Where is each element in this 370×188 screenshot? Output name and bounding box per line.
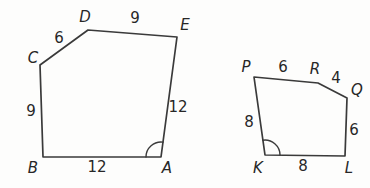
vertex-label-b: B xyxy=(28,159,38,177)
vertex-label-k: K xyxy=(253,159,264,177)
vertex-label-d: D xyxy=(79,8,91,26)
geometry-figure: D 9 E 6 C 12 9 B 12 A P 6 R 4 Q 8 6 K 8 … xyxy=(0,0,370,188)
side-label-rq: 4 xyxy=(331,69,341,87)
similar-pentagons-diagram: D 9 E 6 C 12 9 B 12 A P 6 R 4 Q 8 6 K 8 … xyxy=(0,0,370,188)
vertex-label-p: P xyxy=(241,58,251,76)
side-label-cd: 6 xyxy=(54,29,64,47)
vertex-label-c: C xyxy=(28,49,39,67)
vertex-label-l: L xyxy=(345,159,353,177)
side-label-pr: 6 xyxy=(278,58,288,76)
vertex-label-a: A xyxy=(161,159,172,177)
left-pentagon: D 9 E 6 C 12 9 B 12 A xyxy=(26,8,190,177)
side-label-ab: 12 xyxy=(87,158,106,176)
vertex-label-e: E xyxy=(180,16,190,34)
side-label-de: 9 xyxy=(130,9,140,27)
left-pentagon-outline xyxy=(40,30,177,157)
side-label-bc: 9 xyxy=(26,102,36,120)
side-label-ql: 6 xyxy=(349,121,359,139)
side-label-ea: 12 xyxy=(168,98,187,116)
vertex-label-q: Q xyxy=(351,81,363,99)
vertex-label-r: R xyxy=(310,60,320,78)
side-label-pk: 8 xyxy=(244,113,254,131)
right-pentagon: P 6 R 4 Q 8 6 K 8 L xyxy=(241,58,363,177)
side-label-kl: 8 xyxy=(298,157,308,175)
right-pentagon-outline xyxy=(254,77,347,156)
